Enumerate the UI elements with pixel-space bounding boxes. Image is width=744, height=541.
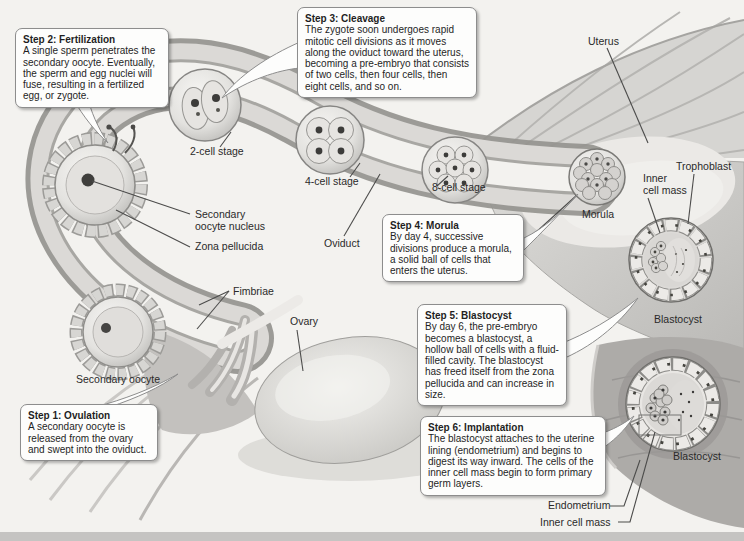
zona-pellucida-label: Zona pellucida (195, 241, 263, 253)
morula-label: Morula (582, 209, 614, 221)
secondary-oocyte-nucleus-label: Secondary oocyte nucleus (195, 209, 265, 233)
oocyte-nucleus (82, 174, 95, 187)
ovary-label: Ovary (290, 316, 318, 328)
morula-embryo (569, 149, 625, 205)
oviduct-label: Oviduct (324, 238, 360, 250)
step-6-body: The blastocyst attaches to the uterine l… (428, 433, 598, 489)
step-4-callout: Step 4: Morula By day 4, successive divi… (382, 214, 524, 282)
inner-cell-mass-upper-label: Inner cell mass (643, 173, 687, 197)
figure-canvas: Step 1: Ovulation A secondary oocyte is … (0, 0, 744, 541)
eight-cell-stage-label: 8-cell stage (432, 182, 486, 194)
step-5-body: By day 6, the pre-embryo becomes a blast… (425, 321, 559, 400)
step-1-title: Step 1: Ovulation (28, 410, 150, 421)
fimbriae-label: Fimbriae (233, 286, 274, 298)
blastocyst-upper-label: Blastocyst (654, 314, 702, 326)
blastocyst-lower-label: Blastocyst (673, 451, 721, 463)
two-cell-embryo (169, 69, 241, 141)
endometrium-label: Endometrium (548, 500, 610, 512)
four-cell-embryo (296, 106, 364, 174)
step-2-body: A single sperm penetrates the secondary … (23, 45, 161, 101)
step-6-title: Step 6: Implantation (428, 422, 598, 433)
blastocyst-lower-embryo (618, 349, 728, 459)
step-5-title: Step 5: Blastocyst (425, 310, 559, 321)
step-1-body: A secondary oocyte is released from the … (28, 421, 150, 455)
two-cell-stage-label: 2-cell stage (190, 146, 244, 158)
step-4-title: Step 4: Morula (390, 220, 516, 231)
step-2-title: Step 2: Fertilization (23, 34, 161, 45)
step-3-title: Step 3: Cleavage (305, 13, 469, 24)
step-3-callout: Step 3: Cleavage The zygote soon undergo… (297, 7, 477, 98)
blastocoel-cavity (663, 238, 695, 282)
step-3-body: The zygote soon undergoes rapid mitotic … (305, 24, 469, 92)
trophoblast-label: Trophoblast (676, 161, 731, 173)
scan-edge-band (0, 532, 744, 541)
secondary-oocyte-label: Secondary oocyte (76, 374, 160, 386)
step-4-body: By day 4, successive divisions produce a… (390, 231, 516, 276)
four-cell-stage-label: 4-cell stage (305, 176, 359, 188)
blastocyst-upper-embryo (629, 218, 713, 302)
step-2-callout: Step 2: Fertilization A single sperm pen… (15, 28, 169, 108)
step-5-callout: Step 5: Blastocyst By day 6, the pre-emb… (417, 304, 567, 406)
uterus-label: Uterus (588, 36, 619, 48)
step-6-callout: Step 6: Implantation The blastocyst atta… (420, 416, 606, 496)
inner-cell-mass-lower-label: Inner cell mass (540, 517, 611, 529)
step-1-callout: Step 1: Ovulation A secondary oocyte is … (20, 404, 158, 461)
